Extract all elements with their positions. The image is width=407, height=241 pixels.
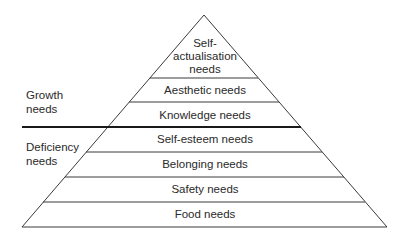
group-label-line: Growth [26, 88, 63, 102]
level-safety: Safety needs [171, 183, 238, 196]
level-self-esteem: Self-esteem needs [157, 133, 253, 146]
level-label-line: Self- [173, 37, 237, 50]
group-label-line: needs [26, 102, 63, 116]
level-self-actualisation: Self- actualisation needs [173, 37, 237, 76]
group-label-deficiency: Deficiency needs [26, 140, 79, 168]
needs-pyramid-diagram: Self- actualisation needs Aesthetic need… [0, 0, 407, 241]
level-label-line: needs [173, 63, 237, 76]
group-label-line: needs [26, 154, 79, 168]
level-knowledge: Knowledge needs [159, 109, 250, 122]
group-label-growth: Growth needs [26, 88, 63, 116]
level-aesthetic: Aesthetic needs [164, 84, 246, 97]
level-food: Food needs [175, 208, 236, 221]
level-label-line: actualisation [173, 50, 237, 63]
level-belonging: Belonging needs [162, 158, 248, 171]
group-label-line: Deficiency [26, 140, 79, 154]
